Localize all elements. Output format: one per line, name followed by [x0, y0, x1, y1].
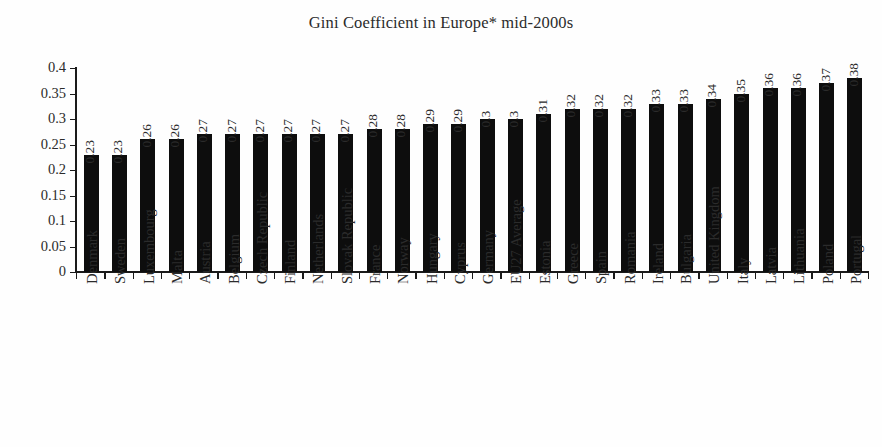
bar — [593, 109, 608, 272]
x-axis-tick-mark — [585, 272, 586, 279]
x-axis-tick-mark — [217, 272, 218, 279]
category-axis-label: Czech Republic — [255, 192, 270, 284]
category-axis-label: Cyprus — [453, 242, 468, 284]
y-axis-tick-label: 0.15 — [41, 187, 66, 204]
category-axis-label: Estonia — [538, 241, 553, 285]
x-axis-tick-mark — [811, 272, 812, 279]
bar-value-label: 0.34 — [705, 83, 719, 107]
bar — [763, 88, 778, 272]
x-axis-tick-mark — [755, 272, 756, 279]
y-axis-tick-label: 0.25 — [41, 136, 66, 153]
x-axis-tick-mark — [613, 272, 614, 279]
x-axis-tick-mark — [840, 272, 841, 279]
bar-value-label: 0.38 — [846, 63, 860, 87]
x-axis-tick-mark — [359, 272, 360, 279]
category-axis-label: Bulgaria — [679, 234, 694, 284]
category-axis-label: Lithuania — [792, 228, 807, 284]
category-axis-label: Luxembourg — [142, 209, 157, 284]
x-axis-tick-mark — [557, 272, 558, 279]
bar-value-label: 0.29 — [422, 109, 436, 133]
bar-value-label: 0.3 — [507, 111, 521, 128]
plot-area — [76, 68, 868, 272]
x-axis-tick-mark — [783, 272, 784, 279]
x-axis-tick-mark — [500, 272, 501, 279]
category-axis-label: Romania — [623, 232, 638, 284]
bar-value-label: 0.33 — [677, 89, 691, 113]
y-axis-tick-label: 0.3 — [48, 110, 66, 127]
bar-value-label: 0.26 — [139, 124, 153, 148]
x-axis-tick-mark — [133, 272, 134, 279]
category-axis-label: Ireland — [651, 243, 666, 284]
y-axis-tick-label: 0.4 — [48, 59, 66, 76]
bar-value-label: 0.23 — [83, 140, 97, 164]
bar-value-label: 0.28 — [366, 114, 380, 138]
y-axis-tick-label: 0.05 — [41, 238, 66, 255]
bar-value-label: 0.27 — [281, 119, 295, 143]
x-axis-tick-mark — [274, 272, 275, 279]
x-axis-tick-mark — [472, 272, 473, 279]
category-axis-label: Greece — [566, 243, 581, 284]
category-axis-label: Hungary — [425, 233, 440, 284]
category-axis-label: Finland — [283, 240, 298, 284]
category-axis-label: Sweden — [113, 238, 128, 284]
category-axis-label: Malta — [170, 250, 185, 284]
bar-value-label: 0.36 — [790, 73, 804, 97]
category-axis-label: Austria — [198, 241, 213, 284]
bar-value-label: 0.37 — [818, 68, 832, 92]
bar-value-label: 0.32 — [620, 94, 634, 118]
x-axis-tick-mark — [529, 272, 530, 279]
category-axis-label: Slovak Republic — [340, 188, 355, 284]
bar-value-label: 0.28 — [394, 114, 408, 138]
category-axis-label: EU27 Average — [509, 199, 524, 284]
x-axis-tick-mark — [868, 272, 869, 279]
category-axis-label: Netherlands — [311, 214, 326, 284]
bar-value-label: 0.3 — [479, 111, 493, 128]
y-axis-tick-label: 0.35 — [41, 85, 66, 102]
x-axis-tick-mark — [642, 272, 643, 279]
chart-title: Gini Coefficient in Europe* mid-2000s — [0, 13, 882, 33]
x-axis-tick-mark — [104, 272, 105, 279]
category-axis-label: United Kingdom — [707, 186, 722, 284]
x-axis-tick-mark — [189, 272, 190, 279]
x-axis-tick-mark — [246, 272, 247, 279]
bar-value-label: 0.31 — [535, 99, 549, 123]
x-axis-tick-mark — [727, 272, 728, 279]
category-axis-label: Italy — [736, 257, 751, 284]
bar-value-label: 0.27 — [337, 119, 351, 143]
bar-value-label: 0.27 — [252, 119, 266, 143]
x-axis-tick-mark — [670, 272, 671, 279]
bar-value-label: 0.26 — [168, 124, 182, 148]
category-axis-label: Norway — [396, 237, 411, 284]
y-axis-tick-label: 0.2 — [48, 161, 66, 178]
bar-value-label: 0.35 — [733, 78, 747, 102]
bar-value-label: 0.27 — [224, 119, 238, 143]
category-axis-label: Latvia — [764, 247, 779, 284]
y-axis-tick-label: 0.1 — [48, 212, 66, 229]
category-axis-label: France — [368, 245, 383, 284]
x-axis-tick-mark — [76, 272, 77, 279]
x-axis-tick-mark — [387, 272, 388, 279]
bar-value-label: 0.27 — [196, 119, 210, 143]
category-axis-label: Portugal — [849, 235, 864, 284]
bar-value-label: 0.27 — [309, 119, 323, 143]
bar-value-label: 0.36 — [762, 73, 776, 97]
category-axis-label: Spain — [594, 251, 609, 284]
bar-value-label: 0.32 — [592, 94, 606, 118]
x-axis-tick-mark — [302, 272, 303, 279]
category-axis-label: Denmark — [85, 230, 100, 284]
y-axis-tick-label: 0 — [59, 263, 66, 280]
category-axis-label: Germany — [481, 230, 496, 284]
bar-value-label: 0.23 — [111, 140, 125, 164]
bar — [734, 94, 749, 273]
x-axis-tick-mark — [331, 272, 332, 279]
x-axis-tick-mark — [161, 272, 162, 279]
category-axis-label: Belgium — [227, 234, 242, 284]
bar-value-label: 0.33 — [648, 89, 662, 113]
bar-value-label: 0.29 — [450, 109, 464, 133]
category-axis-label: Poland — [821, 244, 836, 284]
x-axis-tick-mark — [415, 272, 416, 279]
bar-value-label: 0.32 — [564, 94, 578, 118]
x-axis-tick-mark — [444, 272, 445, 279]
chart-figure: Gini Coefficient in Europe* mid-2000s 0.… — [0, 0, 882, 447]
x-axis-tick-mark — [698, 272, 699, 279]
